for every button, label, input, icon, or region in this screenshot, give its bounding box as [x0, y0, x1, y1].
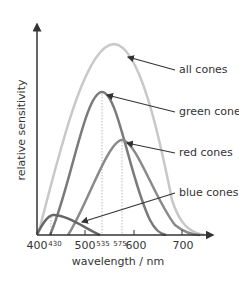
- label-red-cones: red cones: [179, 146, 233, 159]
- tick-400: 400: [27, 239, 48, 252]
- label-green-cones: green cones: [179, 105, 239, 118]
- tick-575: 575: [113, 240, 126, 248]
- x-axis-label: wavelength / nm: [72, 255, 164, 268]
- tick-700: 700: [173, 239, 194, 252]
- tick-535: 535: [96, 240, 109, 248]
- label-all-cones: all cones: [179, 63, 228, 76]
- label-blue-cones: blue cones: [179, 186, 239, 199]
- annotation-arrows: [82, 57, 175, 222]
- y-axis-label: relative sensitivity: [15, 79, 28, 180]
- tick-500: 500: [75, 239, 96, 252]
- tick-600: 600: [126, 239, 147, 252]
- tick-430: 430: [48, 240, 61, 248]
- cone-sensitivity-chart: all cones green cones red cones blue con…: [0, 0, 239, 287]
